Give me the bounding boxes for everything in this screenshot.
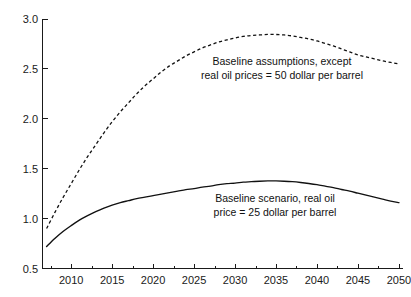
x-tick-label: 2015: [100, 274, 124, 286]
x-tick-label: 2030: [223, 274, 247, 286]
x-tick-label: 2050: [387, 274, 411, 286]
x-axis-ticks: [52, 264, 400, 269]
y-tick-label: 0.5: [23, 263, 38, 275]
chart-figure: 0.5 1.0 1.5 2.0 2.5 3.0 2010201520202025…: [0, 0, 411, 297]
annotation-25-dollar: Baseline scenario, real oil price = 25 d…: [214, 192, 337, 218]
x-tick-label: 2010: [59, 274, 83, 286]
annotation-50-dollar-line2: real oil prices = 50 dollar per barrel: [201, 69, 363, 81]
x-tick-label: 2020: [141, 274, 165, 286]
annotation-50-dollar: Baseline assumptions, except real oil pr…: [201, 55, 363, 81]
x-tick-label: 2025: [182, 274, 206, 286]
line-chart: 0.5 1.0 1.5 2.0 2.5 3.0 2010201520202025…: [0, 0, 411, 297]
y-tick-label: 1.5: [23, 163, 38, 175]
y-tick-label: 1.0: [23, 213, 38, 225]
annotation-25-dollar-line1: Baseline scenario, real oil: [215, 192, 335, 204]
y-axis-tick-labels: 0.5 1.0 1.5 2.0 2.5 3.0: [23, 13, 38, 275]
y-axis-ticks: [43, 19, 48, 269]
y-tick-label: 3.0: [23, 13, 38, 25]
x-tick-label: 2045: [346, 274, 370, 286]
annotation-50-dollar-line1: Baseline assumptions, except: [213, 55, 352, 67]
y-tick-label: 2.5: [23, 63, 38, 75]
x-tick-label: 2040: [305, 274, 329, 286]
x-tick-label: 2035: [264, 274, 288, 286]
x-axis-tick-labels: 201020152020202520302035204020452050: [59, 274, 411, 286]
annotation-25-dollar-line2: price = 25 dollar per barrel: [214, 206, 337, 218]
y-tick-label: 2.0: [23, 113, 38, 125]
